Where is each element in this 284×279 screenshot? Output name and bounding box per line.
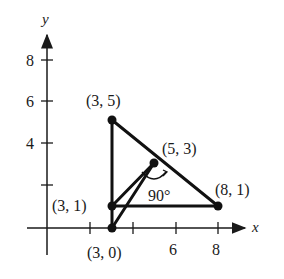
point-3-1 xyxy=(108,202,117,211)
x-axis-label: x xyxy=(251,219,259,235)
y-tick-label-8: 8 xyxy=(26,52,34,69)
point-label-3-1: (3, 1) xyxy=(52,197,87,215)
coordinate-diagram: 6 8 4 6 8 x y (3, 5) (3, 1) (3, 0) (5, 3… xyxy=(0,0,284,279)
point-3-5 xyxy=(108,116,117,125)
point-3-0 xyxy=(108,224,117,233)
point-label-3-0: (3, 0) xyxy=(87,244,122,262)
y-tick-label-4: 4 xyxy=(26,135,34,152)
y-tick-label-6: 6 xyxy=(26,93,34,110)
angle-label: 90° xyxy=(148,187,170,204)
point-label-3-5: (3, 5) xyxy=(86,92,121,110)
point-8-1 xyxy=(214,202,223,211)
x-tick-label-6: 6 xyxy=(169,241,177,258)
point-label-8-1: (8, 1) xyxy=(215,181,250,199)
y-axis-label: y xyxy=(40,11,49,27)
point-label-5-3: (5, 3) xyxy=(162,140,197,158)
x-tick-label-8: 8 xyxy=(212,241,220,258)
point-5-3 xyxy=(150,159,159,168)
